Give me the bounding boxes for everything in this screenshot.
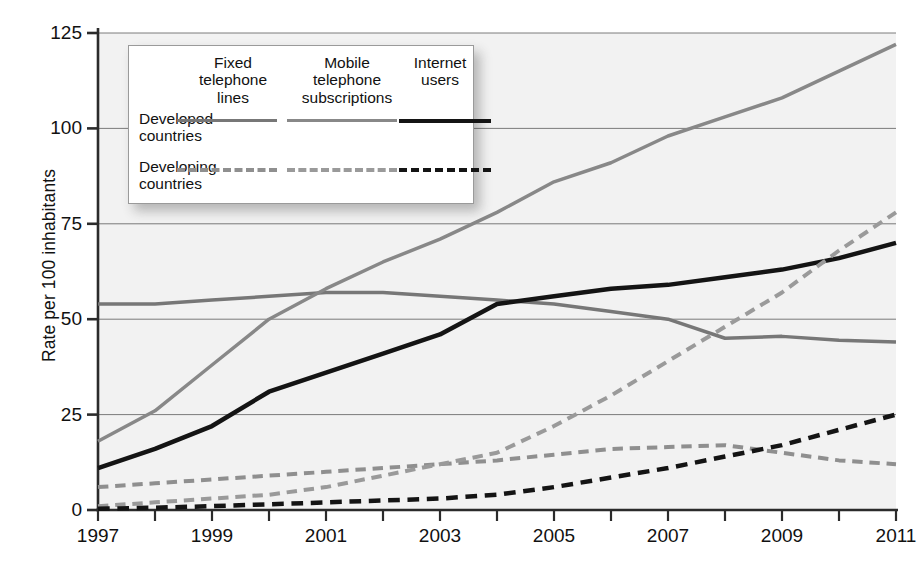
x-tick-label: 2003	[405, 526, 475, 545]
x-tick-label: 2001	[291, 526, 361, 545]
legend-col3-line1: Internet	[394, 54, 486, 71]
x-tick-label: 1997	[63, 526, 133, 545]
y-tick-label: 0	[26, 500, 82, 519]
legend-row-label-developing: Developing countries	[139, 158, 217, 193]
legend-col2-line2: telephone	[284, 71, 410, 88]
x-tick-label: 2005	[519, 526, 589, 545]
legend-column-header-mobile: Mobile telephone subscriptions	[284, 54, 410, 106]
legend-col2-line1: Mobile	[284, 54, 410, 71]
legend-col1-line2: telephone	[177, 71, 289, 88]
legend-column-header-internet: Internet users	[394, 54, 486, 89]
x-tick-label: 1999	[177, 526, 247, 545]
legend-col3-line2: users	[394, 71, 486, 88]
chart-legend: Fixed telephone lines Mobile telephone s…	[128, 45, 474, 204]
legend-swatch	[399, 168, 491, 172]
y-tick-label: 50	[26, 309, 82, 328]
x-tick-label: 2009	[747, 526, 817, 545]
legend-col1-line1: Fixed	[177, 54, 289, 71]
legend-row-label-developed: Developed countries	[139, 110, 213, 145]
y-tick-label: 100	[26, 118, 82, 137]
legend-swatch	[399, 119, 491, 123]
legend-col1-line3: lines	[177, 89, 289, 106]
y-tick-label: 25	[26, 405, 82, 424]
x-tick-label: 2007	[633, 526, 703, 545]
legend-swatch	[287, 119, 397, 122]
legend-column-header-fixed: Fixed telephone lines	[177, 54, 289, 106]
legend-col2-line3: subscriptions	[284, 89, 410, 106]
y-tick-label: 125	[26, 23, 82, 42]
legend-swatch	[177, 119, 277, 122]
x-tick-label: 2011	[861, 526, 918, 545]
chart-container: Rate per 100 inhabitants 0255075100125 1…	[0, 0, 918, 571]
legend-developing-line1: Developing	[139, 158, 217, 175]
legend-swatch	[287, 168, 397, 172]
legend-developed-line2: countries	[139, 127, 213, 144]
y-tick-label: 75	[26, 214, 82, 233]
legend-developing-line2: countries	[139, 175, 217, 192]
legend-swatch	[177, 168, 277, 172]
